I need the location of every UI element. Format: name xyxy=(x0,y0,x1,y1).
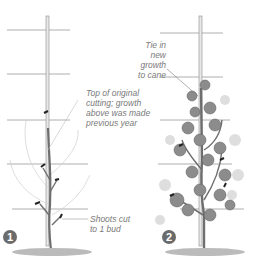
shoots-cut-label: Shoots cut to 1 bud xyxy=(90,214,130,234)
tie-in-leader xyxy=(167,69,198,96)
panel-2-ground xyxy=(165,248,245,256)
panel-2-number-badge: 2 xyxy=(162,230,176,244)
panel-1-number-badge: 1 xyxy=(3,230,17,244)
tie-in-label: Tie in new growth to cane xyxy=(128,40,166,80)
top-of-cutting-label: Top of original cutting; growth above wa… xyxy=(86,88,150,128)
panel-1-ground xyxy=(12,248,92,256)
